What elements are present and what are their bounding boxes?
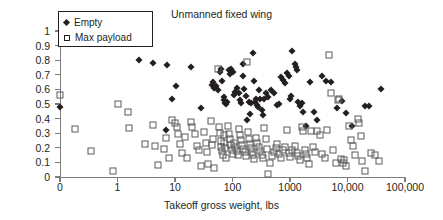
data-point-max-payload bbox=[166, 155, 173, 162]
data-point-empty bbox=[237, 99, 244, 106]
diamond-marker-icon bbox=[63, 19, 70, 26]
data-point-max-payload bbox=[326, 51, 333, 58]
scatter-chart: Unmanned fixed wing Mass fractions Takeo… bbox=[0, 0, 443, 220]
y-tick-label: 0.4 bbox=[0, 114, 50, 124]
data-point-max-payload bbox=[351, 152, 358, 159]
data-point-max-payload bbox=[267, 160, 274, 167]
data-point-max-payload bbox=[161, 145, 168, 152]
data-point-empty bbox=[150, 60, 157, 67]
data-point-max-payload bbox=[124, 108, 131, 115]
data-point-max-payload bbox=[152, 143, 159, 150]
data-point-max-payload bbox=[174, 123, 181, 130]
data-point-empty bbox=[281, 80, 288, 87]
data-point-empty bbox=[300, 109, 307, 116]
data-point-max-payload bbox=[316, 132, 323, 139]
data-point-max-payload bbox=[376, 157, 383, 164]
data-point-max-payload bbox=[356, 119, 363, 126]
data-point-max-payload bbox=[203, 148, 210, 155]
data-point-max-payload bbox=[251, 156, 258, 163]
data-point-empty bbox=[136, 57, 143, 64]
x-tick-label: 100 bbox=[203, 182, 263, 193]
data-point-empty bbox=[328, 78, 335, 85]
data-point-empty bbox=[163, 62, 170, 69]
y-tick-label: 0 bbox=[0, 172, 50, 182]
data-point-max-payload bbox=[278, 155, 285, 162]
legend-item-max-payload: Max payload bbox=[64, 30, 152, 45]
data-point-empty bbox=[163, 126, 170, 133]
data-point-max-payload bbox=[110, 167, 117, 174]
data-point-max-payload bbox=[265, 171, 272, 178]
data-point-max-payload bbox=[283, 126, 290, 133]
x-tick-label: 100,000 bbox=[375, 182, 435, 193]
x-tick-label: 10 bbox=[145, 182, 205, 193]
data-point-max-payload bbox=[291, 142, 298, 149]
data-point-max-payload bbox=[330, 147, 337, 154]
data-point-empty bbox=[289, 48, 296, 55]
data-point-max-payload bbox=[300, 128, 307, 135]
data-point-empty bbox=[173, 83, 180, 90]
data-point-max-payload bbox=[260, 155, 267, 162]
data-point-max-payload bbox=[311, 148, 318, 155]
y-tick-label: 0.5 bbox=[0, 99, 50, 109]
data-point-max-payload bbox=[357, 132, 364, 139]
data-point-max-payload bbox=[195, 146, 202, 153]
square-marker-icon bbox=[64, 35, 70, 41]
data-point-max-payload bbox=[207, 117, 214, 124]
data-point-max-payload bbox=[197, 163, 204, 170]
y-tick-label: 0.1 bbox=[0, 157, 50, 167]
data-point-max-payload bbox=[163, 134, 170, 141]
data-point-empty bbox=[366, 102, 373, 109]
data-point-max-payload bbox=[243, 59, 250, 66]
data-point-max-payload bbox=[189, 124, 196, 131]
data-point-max-payload bbox=[154, 161, 161, 168]
data-point-max-payload bbox=[214, 65, 221, 72]
data-point-max-payload bbox=[71, 126, 78, 133]
data-point-max-payload bbox=[224, 123, 231, 130]
data-point-max-payload bbox=[176, 141, 183, 148]
data-point-max-payload bbox=[88, 148, 95, 155]
data-point-empty bbox=[314, 116, 321, 123]
data-point-empty bbox=[310, 109, 317, 116]
data-point-max-payload bbox=[261, 125, 268, 132]
x-tick-label: 10,000 bbox=[318, 182, 378, 193]
data-point-empty bbox=[197, 105, 204, 112]
data-point-max-payload bbox=[321, 154, 328, 161]
data-point-empty bbox=[250, 49, 257, 56]
data-point-empty bbox=[276, 100, 283, 107]
chart-legend: Empty Max payload bbox=[58, 11, 153, 47]
y-tick-label: 1 bbox=[0, 26, 50, 36]
data-point-max-payload bbox=[126, 125, 133, 132]
data-point-max-payload bbox=[191, 131, 198, 138]
y-tick-label: 0.9 bbox=[0, 41, 50, 51]
data-point-max-payload bbox=[305, 160, 312, 167]
data-point-empty bbox=[56, 104, 63, 111]
data-point-max-payload bbox=[359, 158, 366, 165]
y-tick-label: 0.7 bbox=[0, 70, 50, 80]
data-point-empty bbox=[333, 105, 340, 112]
data-point-empty bbox=[260, 112, 267, 119]
y-tick-label: 0.3 bbox=[0, 128, 50, 138]
data-point-max-payload bbox=[262, 135, 269, 142]
x-tick-label: 1000 bbox=[260, 182, 320, 193]
data-point-max-payload bbox=[211, 164, 218, 171]
data-point-max-payload bbox=[150, 122, 157, 129]
data-point-empty bbox=[343, 110, 350, 117]
data-point-max-payload bbox=[114, 101, 121, 108]
data-point-empty bbox=[251, 78, 258, 85]
x-tick-label: 1 bbox=[88, 182, 148, 193]
data-point-max-payload bbox=[57, 91, 64, 98]
data-point-max-payload bbox=[323, 126, 330, 133]
legend-label-max-payload: Max payload bbox=[75, 32, 132, 43]
data-point-max-payload bbox=[201, 129, 208, 136]
data-point-empty bbox=[169, 95, 176, 102]
y-tick-label: 0.8 bbox=[0, 55, 50, 65]
legend-item-empty: Empty bbox=[64, 15, 152, 30]
data-point-max-payload bbox=[182, 134, 189, 141]
x-tick-label: 0 bbox=[30, 182, 90, 193]
y-tick-label: 0.2 bbox=[0, 143, 50, 153]
data-point-max-payload bbox=[183, 154, 190, 161]
y-tick-label: 0.6 bbox=[0, 84, 50, 94]
data-point-max-payload bbox=[336, 95, 343, 102]
x-axis-title: Takeoff gross weight, lbs bbox=[0, 199, 443, 211]
data-point-max-payload bbox=[343, 163, 350, 170]
